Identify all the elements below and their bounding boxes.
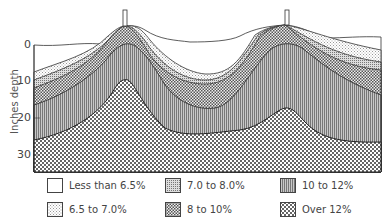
marker-post-left — [123, 10, 127, 26]
legend-item: Over 12% — [280, 202, 351, 217]
swatch-checker-icon — [165, 202, 181, 217]
legend-label: 7.0 to 8.0% — [187, 180, 245, 191]
y-tick-20: 20 — [17, 111, 31, 124]
swatch-blank-icon — [47, 178, 63, 193]
swatch-grid-icon — [165, 178, 181, 193]
legend-label: 6.5 to 7.0% — [69, 204, 127, 215]
swatch-stipple-icon — [47, 202, 63, 217]
legend-label: 10 to 12% — [302, 180, 353, 191]
swatch-vertical-lines-icon — [280, 178, 296, 193]
marker-post-right — [285, 10, 289, 25]
swatch-dots-icon — [280, 202, 296, 217]
legend-item: 6.5 to 7.0% — [47, 202, 127, 217]
legend-item: 7.0 to 8.0% — [165, 178, 245, 193]
y-tick-0: 0 — [24, 38, 31, 51]
y-tick-30: 30 — [17, 148, 31, 161]
legend-label: Less than 6.5% — [69, 180, 145, 191]
legend-item: Less than 6.5% — [47, 178, 145, 193]
legend-label: 8 to 10% — [187, 204, 232, 215]
legend-item: 10 to 12% — [280, 178, 353, 193]
y-tick-10: 10 — [17, 74, 31, 87]
legend-label: Over 12% — [302, 204, 351, 215]
legend-item: 8 to 10% — [165, 202, 232, 217]
